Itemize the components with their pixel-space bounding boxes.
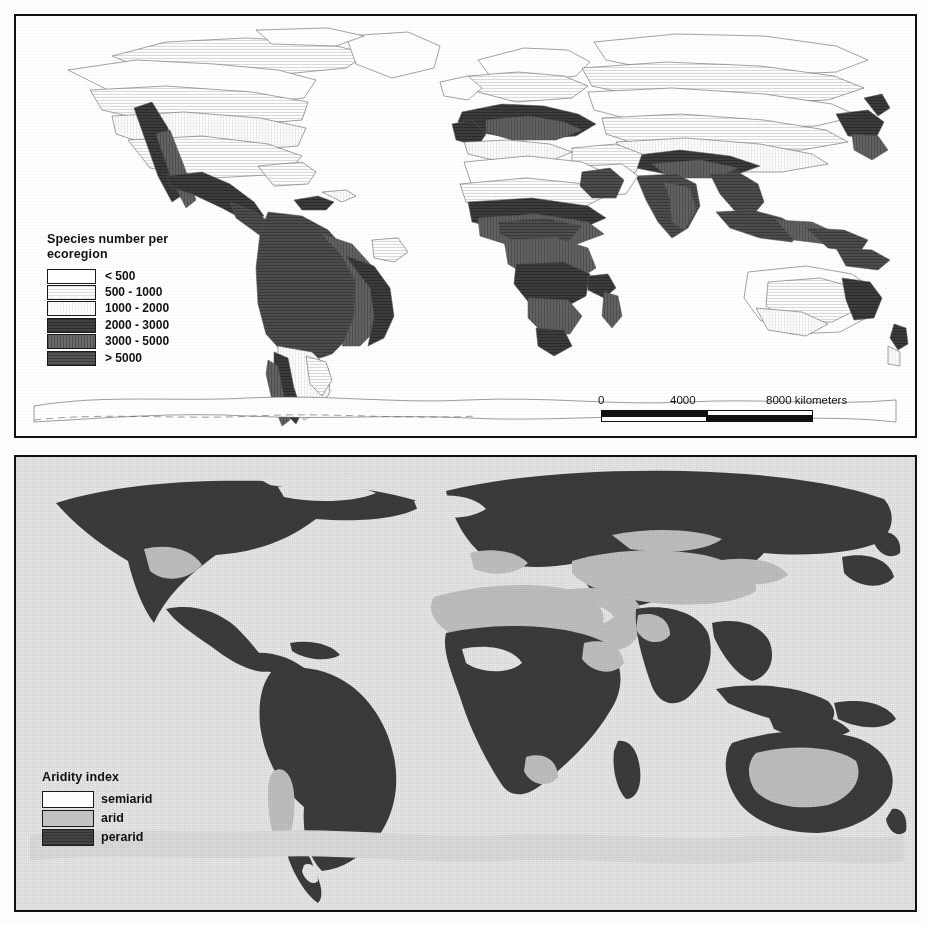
legend-label-2000-3000: 2000 - 3000	[105, 318, 169, 333]
aridity-index-legend: Aridity index semiarid arid perarid	[42, 770, 152, 847]
legend-label-semiarid: semiarid	[101, 792, 152, 807]
legend-swatch-perarid	[42, 829, 94, 846]
legend-item-perarid: perarid	[42, 828, 152, 847]
scale-bar-label-end: 8000 kilometers	[766, 393, 847, 407]
legend-swatch-2000-3000	[47, 318, 96, 333]
legend-label-perarid: perarid	[101, 830, 143, 845]
species-richness-legend: Species number per ecoregion < 500 500 -…	[47, 232, 169, 366]
species-legend-rows: < 500 500 - 1000 1000 - 2000 2000 - 3000…	[47, 268, 169, 366]
legend-item-1000-2000: 1000 - 2000	[47, 301, 169, 317]
legend-item-500-1000: 500 - 1000	[47, 284, 169, 300]
legend-label-3000-5000: 3000 - 5000	[105, 334, 169, 349]
scale-bar-segment	[707, 416, 813, 422]
legend-item-3000-5000: 3000 - 5000	[47, 334, 169, 350]
scale-bar: 0 4000 8000 kilometers	[601, 393, 867, 423]
aridity-legend-rows: semiarid arid perarid	[42, 790, 152, 847]
legend-label-1000-2000: 1000 - 2000	[105, 301, 169, 316]
legend-item-2000-3000: 2000 - 3000	[47, 317, 169, 333]
species-richness-map-panel	[14, 14, 917, 438]
legend-swatch-3000-5000	[47, 334, 96, 349]
legend-label-arid: arid	[101, 811, 124, 826]
aridity-legend-title: Aridity index	[42, 770, 152, 785]
figure-two-world-maps: Species number per ecoregion < 500 500 -…	[0, 0, 927, 925]
scale-bar-row-lower	[601, 416, 813, 422]
legend-swatch-lt-500	[47, 269, 96, 284]
legend-item-semiarid: semiarid	[42, 790, 152, 809]
scale-bar-label-mid: 4000	[670, 393, 696, 407]
legend-label-gt-5000: > 5000	[105, 351, 142, 366]
scale-bar-labels: 0 4000 8000 kilometers	[601, 393, 867, 409]
species-legend-title: Species number per ecoregion	[47, 232, 169, 262]
legend-swatch-gt-5000	[47, 351, 96, 366]
scale-bar-graphic	[601, 410, 867, 423]
species-richness-map-canvas	[16, 16, 915, 436]
legend-label-lt-500: < 500	[105, 269, 135, 284]
legend-swatch-500-1000	[47, 285, 96, 300]
legend-item-arid: arid	[42, 809, 152, 828]
scale-bar-label-start: 0	[598, 393, 604, 407]
legend-label-500-1000: 500 - 1000	[105, 285, 162, 300]
legend-swatch-arid	[42, 810, 94, 827]
scale-bar-segment	[601, 416, 707, 422]
legend-swatch-1000-2000	[47, 301, 96, 316]
legend-item-lt-500: < 500	[47, 268, 169, 284]
legend-item-gt-5000: > 5000	[47, 350, 169, 366]
legend-swatch-semiarid	[42, 791, 94, 808]
